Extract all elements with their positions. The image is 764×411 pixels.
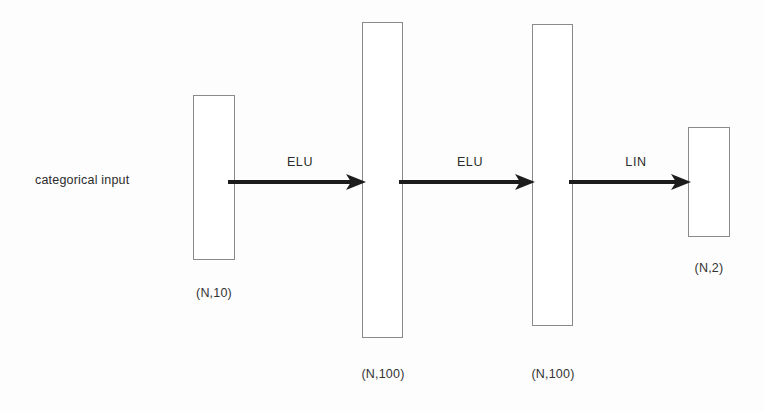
arrow-hidden2-to-output	[569, 171, 695, 193]
network-diagram-canvas: categorical input (N,10) (N,100) (N,100)…	[0, 0, 764, 411]
arrow-input-to-hidden1	[228, 171, 370, 193]
activation-label-3: LIN	[596, 155, 676, 169]
activation-label-2: ELU	[430, 155, 510, 169]
shape-label-hidden-1: (N,100)	[333, 367, 433, 381]
shape-label-input: (N,10)	[164, 286, 264, 300]
shape-label-hidden-2: (N,100)	[503, 367, 603, 381]
arrow-icon	[228, 171, 370, 193]
shape-label-output: (N,2)	[659, 261, 759, 275]
categorical-input-label: categorical input	[35, 173, 129, 187]
arrow-hidden1-to-hidden2	[399, 171, 539, 193]
arrow-icon	[569, 171, 695, 193]
activation-label-1: ELU	[260, 155, 340, 169]
arrow-icon	[399, 171, 539, 193]
